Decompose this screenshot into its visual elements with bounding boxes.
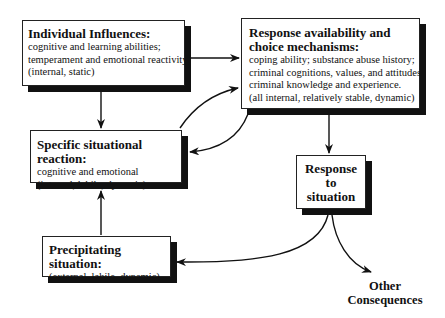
node-response-to-situation: Response to situation [296,155,366,209]
arrow-response-availability-to-specific-reaction [190,114,248,152]
node-line: (internal, static) [28,66,184,79]
node-line: (internal, labile, dynamic) [37,179,181,192]
node-line: Response [297,162,365,176]
node-response-availability: Response availability and choice mechani… [241,18,420,109]
node-title: Individual Influences: [28,27,184,41]
node-line: temperament and emotional reactivity. [28,54,184,67]
arrow-response-to-situation-to-precipitating [177,215,328,262]
node-individual-influences: Individual Influences: cognitive and lea… [22,20,185,86]
node-line: Consequences [345,293,425,307]
node-line: (all internal, relatively stable, dynami… [249,92,419,105]
node-specific-situational-reaction: Specific situational reaction: cognitive… [30,130,182,183]
node-line: coping ability; substance abuse history; [249,54,419,67]
node-line: (external, labile, dynamic) [49,271,170,284]
node-title: choice mechanisms: [249,40,419,54]
node-line: situation [297,190,365,204]
arrow-specific-reaction-to-response-availability [180,88,238,128]
node-line: to [297,176,365,190]
node-line: Other [345,279,425,293]
node-line: cognitive and learning abilities; [28,41,184,54]
node-line: criminal cognitions, values, and attitud… [249,67,419,80]
arrow-response-to-situation-to-other-consequences [332,215,371,272]
node-precipitating-situation: Precipitating situation: (external, labi… [42,236,171,277]
node-line: criminal knowledge and experience. [249,79,419,92]
node-line: cognitive and emotional [37,166,181,179]
node-title: Specific situational reaction: [37,138,181,166]
node-title: Response availability and [249,26,419,40]
node-title: Precipitating situation: [49,243,170,271]
node-other-consequences: Other Consequences [345,279,425,307]
